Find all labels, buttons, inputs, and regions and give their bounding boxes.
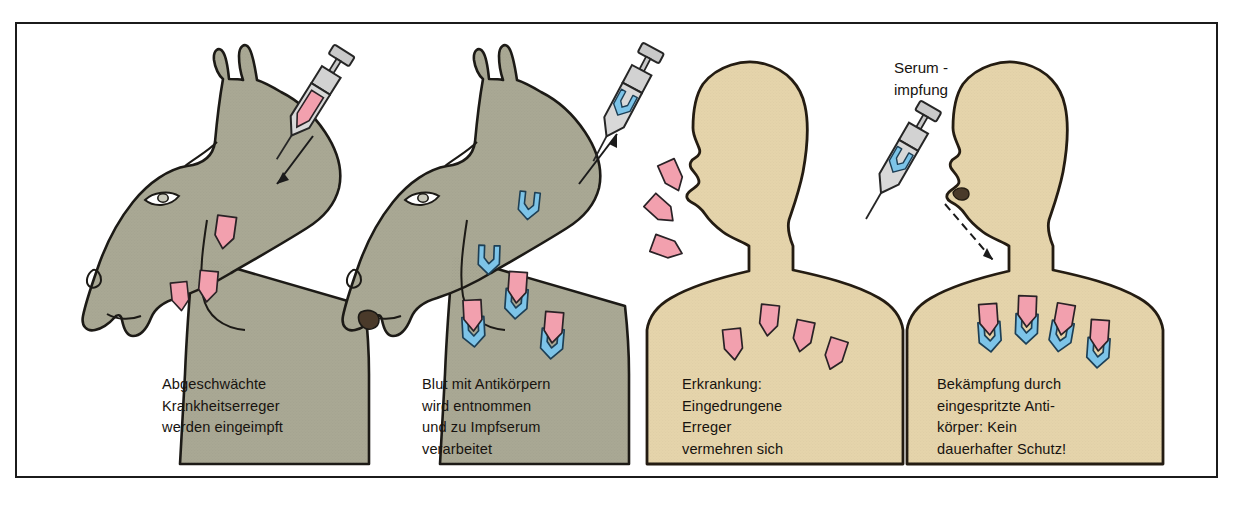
serum-impfung-label: Serum - impfung <box>894 57 948 101</box>
syringe-serum <box>856 100 942 225</box>
panel-horse-2 <box>343 42 664 464</box>
panel-horse-1 <box>83 44 369 464</box>
figure-frame: Abgeschwächte Krankheitserreger werden e… <box>15 22 1218 478</box>
panel-human-1 <box>644 62 903 464</box>
illustration-scene <box>17 24 1220 480</box>
airborne-pathogen-group <box>644 159 687 262</box>
